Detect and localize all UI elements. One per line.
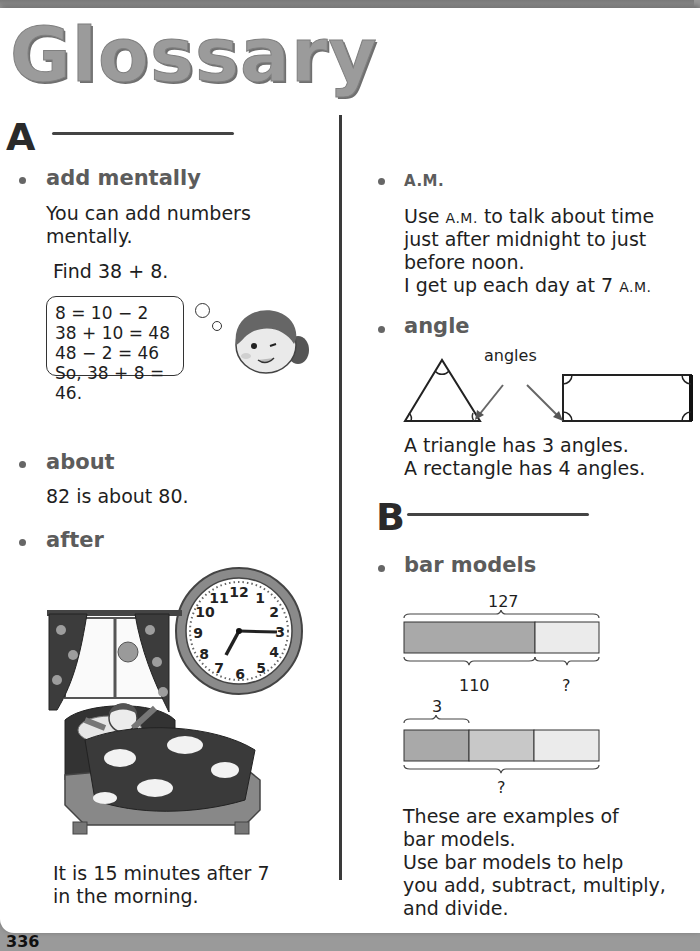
- section-a-rule: [52, 132, 234, 135]
- definition-am-1: Use A.M. to talk about time: [404, 205, 654, 230]
- angle-caption-1: A triangle has 3 angles.: [404, 434, 629, 457]
- bullet-icon: [19, 539, 26, 546]
- bullet-icon: [19, 177, 26, 184]
- thought-dot-icon: [212, 321, 222, 331]
- bar-model-1-part1: 110: [459, 676, 490, 695]
- small-caps-am: A.M.: [619, 279, 651, 295]
- definition-add-mentally-1: You can add numbers: [46, 202, 251, 225]
- term-add-mentally: add mentally: [46, 168, 201, 189]
- bar-models-caption-1: These are examples of: [403, 805, 619, 828]
- bullet-icon: [378, 565, 385, 572]
- boy-in-bed-illustration: [45, 600, 275, 840]
- term-after: after: [46, 530, 104, 551]
- girl-face-icon: [228, 300, 313, 380]
- term-about: about: [46, 452, 115, 473]
- column-divider: [339, 115, 342, 880]
- term-bar-models: bar models: [404, 555, 536, 576]
- bar-model-2: [400, 715, 605, 775]
- text-span: Use: [404, 205, 446, 227]
- definition-am-4: I get up each day at 7 A.M.: [404, 274, 651, 299]
- example-add-mentally: Find 38 + 8.: [53, 260, 168, 283]
- bar-models-caption-3: Use bar models to help: [403, 851, 623, 874]
- definition-about: 82 is about 80.: [46, 485, 189, 508]
- bar-unit-1: [404, 730, 469, 761]
- thought-bubble-box: 8 = 10 − 2 38 + 10 = 48 48 − 2 = 46 So, …: [46, 296, 184, 376]
- bullet-icon: [378, 326, 385, 333]
- bar-models-caption-4: you add, subtract, multiply,: [403, 874, 666, 897]
- thought-line: 38 + 10 = 48: [55, 323, 183, 343]
- caption-after-1: It is 15 minutes after 7: [53, 862, 270, 885]
- section-letter-a: A: [6, 118, 35, 156]
- bar-models-caption-5: and divide.: [403, 897, 508, 920]
- page-number: 336: [6, 932, 39, 951]
- bar-model-1: [400, 610, 605, 670]
- thought-line: 8 = 10 − 2: [55, 303, 183, 323]
- bar-unit-3: [534, 730, 599, 761]
- thought-dot-icon: [195, 303, 210, 318]
- bar-models-caption-2: bar models.: [403, 828, 516, 851]
- bar-model-1-part2: ?: [562, 676, 571, 695]
- clock-number: 12: [229, 584, 248, 600]
- angle-caption-2: A rectangle has 4 angles.: [404, 457, 645, 480]
- thought-line: So, 38 + 8 = 46.: [55, 363, 183, 403]
- section-b-rule: [407, 513, 589, 516]
- caption-after-2: in the morning.: [53, 885, 199, 908]
- angle-shapes-diagram: [395, 355, 694, 425]
- definition-am-2: just after midnight to just: [404, 228, 646, 251]
- definition-am-3: before noon.: [404, 251, 525, 274]
- term-am: A.M.: [404, 174, 444, 189]
- bullet-icon: [378, 178, 385, 185]
- bar-model-2-unit: 3: [432, 697, 442, 716]
- bullet-icon: [19, 461, 26, 468]
- bar-model-2-total: ?: [497, 778, 506, 797]
- text-span: I get up each day at 7: [404, 274, 619, 296]
- term-angle: angle: [404, 316, 470, 337]
- section-letter-b: B: [376, 498, 405, 536]
- thought-line: 48 − 2 = 46: [55, 343, 183, 363]
- text-span: to talk about time: [478, 205, 654, 227]
- small-caps-am: A.M.: [446, 210, 478, 226]
- bar-part-110: [404, 622, 535, 653]
- bar-part-unknown: [535, 622, 599, 653]
- bar-unit-2: [469, 730, 534, 761]
- definition-add-mentally-2: mentally.: [46, 225, 132, 248]
- bar-model-1-total: 127: [488, 592, 519, 611]
- page-title: Glossary: [10, 18, 378, 92]
